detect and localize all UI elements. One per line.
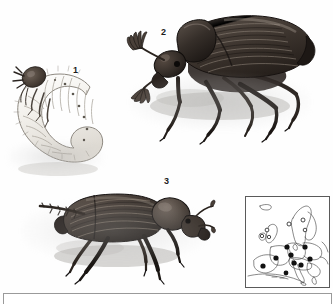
figure-label-1: 1	[73, 66, 78, 75]
beetle2-ground-wash	[130, 74, 310, 130]
beetle3-ground-wash	[22, 200, 208, 262]
figure-label-2: 2	[161, 28, 166, 37]
europe-distribution-map	[245, 196, 330, 288]
europe-map-drawing	[246, 197, 329, 287]
figure-larva: 1	[4, 52, 114, 184]
figure-label-3: 3	[164, 177, 169, 186]
figure-beetle-3: 3	[16, 182, 216, 294]
bottom-frame-rule	[3, 293, 332, 304]
larva-ground-wash	[8, 140, 104, 174]
figure-beetle-2: 2	[120, 2, 325, 150]
